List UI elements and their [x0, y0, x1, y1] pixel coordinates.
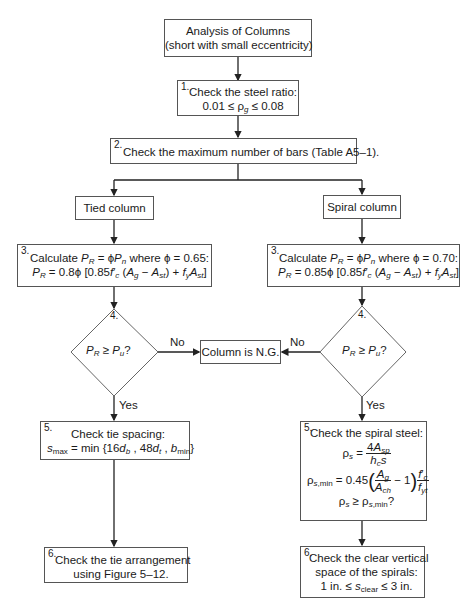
spiral-step4-number: 4.	[358, 309, 366, 320]
spiral-yes-label: Yes	[366, 399, 385, 411]
step2-number: 2.	[114, 140, 122, 150]
step1-line1: Check the steel ratio:	[188, 85, 298, 99]
spiral-step3-line1: Calculate PR = ϕPn where ϕ = 0.70:	[278, 251, 459, 265]
spiral-step6-number: 6.	[304, 548, 312, 558]
spiral-step6-line1: Check the clear vertical	[309, 551, 424, 565]
tied-step4-decision: PR ≥ Pu?	[86, 344, 131, 356]
tied-column-label: Tied column	[76, 201, 153, 215]
spiral-step6-clear-space-box: 6. Check the clear vertical space of the…	[300, 546, 425, 598]
step1-number: 1.	[181, 82, 189, 92]
spiral-step3-line2: PR = 0.85ϕ [0.85f′c (Ag − Ast) + fyAst]	[278, 265, 459, 279]
spiral-step6-line2: space of the spirals:	[309, 565, 424, 579]
tied-yes-label: Yes	[119, 399, 138, 411]
tied-step6-tie-arrangement-box: 6. Check the tie arrangement using Figur…	[44, 547, 188, 583]
tied-step4-number: 4.	[110, 310, 118, 321]
spiral-step4-decision: PR ≥ Pu?	[342, 344, 387, 356]
step2-text: Check the maximum number of bars (Table …	[123, 145, 356, 159]
column-ng-text: Column is N.G.	[201, 345, 280, 359]
tied-step5-number: 5.	[44, 423, 52, 433]
spiral-column-box: Spiral column	[323, 195, 401, 219]
tied-step6-line1: Check the tie arrangement	[55, 553, 187, 567]
tied-no-label: No	[170, 336, 185, 348]
tied-step6-number: 6.	[48, 549, 56, 559]
spiral-no-label: No	[290, 336, 305, 348]
spiral-step3-calculate-box: 3. Calculate PR = ϕPn where ϕ = 0.70: PR…	[267, 244, 460, 287]
step1-formula: 0.01 ≤ ρg ≤ 0.08	[188, 99, 298, 113]
spiral-step6-formula: 1 in. ≤ sclear ≤ 3 in.	[309, 579, 424, 593]
tied-step3-number: 3.	[21, 246, 29, 256]
spiral-step5-eq3: ρs ≥ ρs,min?	[307, 495, 426, 508]
title-box: Analysis of Columns (short with small ec…	[164, 19, 312, 57]
step1-steel-ratio-box: 1. Check the steel ratio: 0.01 ≤ ρg ≤ 0.…	[177, 80, 299, 116]
tied-step5-tie-spacing-box: 5. Check tie spacing: smax = min {16db ,…	[40, 421, 190, 460]
step2-max-bars-box: 2. Check the maximum number of bars (Tab…	[110, 138, 357, 164]
title-line1: Analysis of Columns	[165, 24, 311, 38]
column-ng-box: Column is N.G.	[200, 340, 281, 364]
tied-step6-line2: using Figure 5–12.	[55, 567, 187, 581]
spiral-step5-line1: Check the spiral steel:	[307, 427, 426, 440]
spiral-column-label: Spiral column	[324, 200, 400, 214]
title-line2: (short with small eccentricity)	[165, 38, 311, 52]
tied-step3-calculate-box: 3. Calculate PR = ϕPn where ϕ = 0.65: PR…	[17, 244, 212, 287]
tied-step3-line2: PR = 0.8ϕ [0.85f′c (Ag − Ast) + fyAst]	[28, 265, 211, 279]
tied-step5-line1: Check tie spacing:	[47, 427, 189, 441]
spiral-step5-number: 5.	[304, 423, 312, 433]
tied-step3-line1: Calculate PR = ϕPn where ϕ = 0.65:	[28, 251, 211, 265]
spiral-step5-eq2: ρs,min = 0.45(AgAch − 1)f′cfyt	[307, 468, 426, 493]
tied-step5-formula: smax = min {16db , 48dt , bmin}	[47, 441, 189, 455]
spiral-step3-number: 3.	[271, 246, 279, 256]
spiral-step5-eq1: ρs = 4Asphcs	[307, 441, 426, 466]
tied-column-box: Tied column	[75, 196, 154, 220]
spiral-step5-spiral-steel-box: 5. Check the spiral steel: ρs = 4Asphcs …	[300, 421, 427, 521]
